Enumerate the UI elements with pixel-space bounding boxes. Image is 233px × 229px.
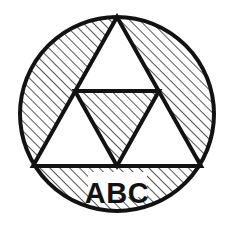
figure-label-abc: ABC [85,177,149,209]
figure-container: ABC [0,0,233,229]
geometric-figure-svg: ABC [0,0,233,229]
